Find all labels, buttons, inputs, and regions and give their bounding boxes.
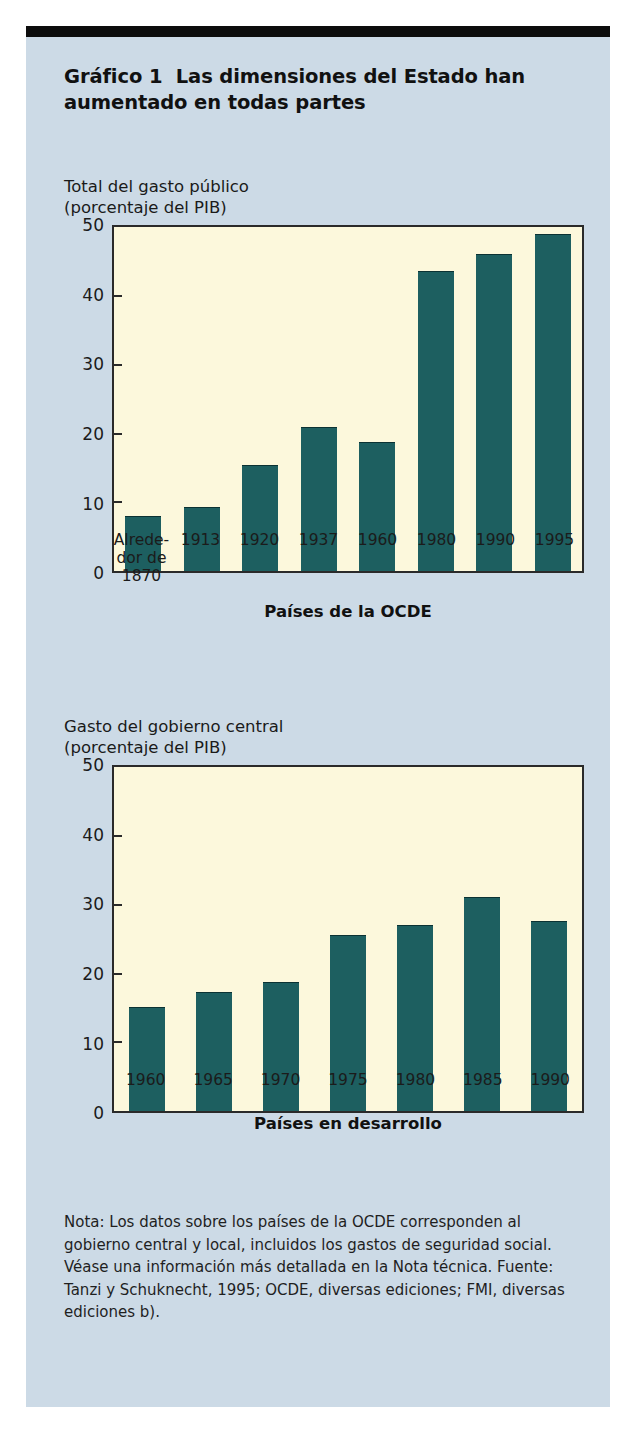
- chart-1-x-tick-label: Alrede- dor de 1870: [112, 532, 171, 585]
- chart-2-plot-area: [112, 765, 584, 1113]
- chart-1-heading: Total del gasto público (porcentaje del …: [64, 176, 584, 218]
- chart-2-x-axis: 1960196519701975198019851990: [112, 1072, 584, 1090]
- chart-2-x-tick-label: 1990: [517, 1072, 584, 1090]
- chart-1-y-tick-label: 30: [82, 354, 104, 374]
- chart-2-heading: Gasto del gobierno central (porcentaje d…: [64, 716, 584, 758]
- chart-2-x-tick-label: 1985: [449, 1072, 516, 1090]
- chart-1-x-tick-label: 1995: [525, 532, 584, 585]
- chart-1-plot-area: [112, 225, 584, 573]
- chart-2-bar-slot: [315, 767, 382, 1111]
- chart-2-bar-slot: [381, 767, 448, 1111]
- chart-2-subtitle: (porcentaje del PIB): [64, 737, 584, 758]
- chart-1-axis-title: Países de la OCDE: [112, 602, 584, 621]
- chart-1-subtitle: (porcentaje del PIB): [64, 197, 584, 218]
- chart-2-x-tick-label: 1960: [112, 1072, 179, 1090]
- chart-2-x-tick-label: 1965: [179, 1072, 246, 1090]
- chart-1-x-tick-label: 1980: [407, 532, 466, 585]
- chart-1-bar-slot: [524, 227, 583, 571]
- figure-card: Gráfico 1 Las dimensiones del Estado han…: [26, 26, 610, 1407]
- chart-1-x-tick-label: 1920: [230, 532, 289, 585]
- chart-1-bar-slot: [173, 227, 232, 571]
- chart-2-bar-slot: [181, 767, 248, 1111]
- chart-1-bar: [535, 234, 571, 571]
- chart-1-y-tick-label: 50: [82, 215, 104, 235]
- chart-1-x-tick-label: 1990: [466, 532, 525, 585]
- chart-2-plot-row: 01020304050: [64, 765, 584, 1113]
- chart-2-y-axis: 01020304050: [64, 765, 104, 1113]
- chart-2-y-tick-label: 40: [82, 825, 104, 845]
- chart-1-x-tick-label: 1937: [289, 532, 348, 585]
- chart-2-y-tick-label: 20: [82, 964, 104, 984]
- chart-1-bar-slot: [465, 227, 524, 571]
- chart-2-y-tick-label: 50: [82, 755, 104, 775]
- chart-panel-desarrollo: Gasto del gobierno central (porcentaje d…: [64, 716, 584, 1113]
- chart-2-bar-slot: [114, 767, 181, 1111]
- top-rule: [26, 26, 610, 37]
- chart-1-x-tick-label: 1960: [348, 532, 407, 585]
- chart-2-bar-slot: [448, 767, 515, 1111]
- chart-2-title: Gasto del gobierno central: [64, 716, 584, 737]
- chart-2-bar: [129, 1007, 165, 1111]
- chart-1-y-tick-label: 40: [82, 285, 104, 305]
- chart-1-bar-slot: [407, 227, 466, 571]
- chart-1-y-tick-label: 20: [82, 424, 104, 444]
- chart-1-bars: [114, 227, 582, 571]
- chart-2-bar: [196, 992, 232, 1111]
- figure-label: Gráfico 1: [64, 65, 162, 88]
- chart-1-bar-slot: [348, 227, 407, 571]
- chart-1-y-tick-label: 10: [82, 494, 104, 514]
- chart-2-x-tick-label: 1970: [247, 1072, 314, 1090]
- chart-2-bars: [114, 767, 582, 1111]
- chart-2-x-tick-label: 1975: [314, 1072, 381, 1090]
- chart-2-x-tick-label: 1980: [382, 1072, 449, 1090]
- chart-1-bar-slot: [290, 227, 349, 571]
- chart-2-y-tick-label: 30: [82, 894, 104, 914]
- chart-panel-ocde: Total del gasto público (porcentaje del …: [64, 176, 584, 573]
- chart-2-y-tick-label: 10: [82, 1034, 104, 1054]
- chart-1-plot-row: 01020304050: [64, 225, 584, 573]
- figure-note: Nota: Los datos sobre los países de la O…: [64, 1211, 569, 1324]
- chart-1-title: Total del gasto público: [64, 176, 584, 197]
- chart-1-bar-slot: [114, 227, 173, 571]
- chart-2-bar-slot: [515, 767, 582, 1111]
- chart-1-y-axis: 01020304050: [64, 225, 104, 573]
- chart-1-y-tick-label: 0: [93, 563, 104, 583]
- chart-1-bar: [418, 271, 454, 571]
- page-title: Gráfico 1 Las dimensiones del Estado han…: [64, 64, 564, 115]
- chart-1-bar-slot: [231, 227, 290, 571]
- chart-2-bar-slot: [248, 767, 315, 1111]
- chart-1-bar: [476, 254, 512, 571]
- chart-1-x-tick-label: 1913: [171, 532, 230, 585]
- chart-2-axis-title: Países en desarrollo: [112, 1114, 584, 1133]
- chart-1-x-axis: Alrede- dor de 1870191319201937196019801…: [112, 532, 584, 585]
- chart-2-y-tick-label: 0: [93, 1103, 104, 1123]
- chart-2-bar: [263, 982, 299, 1111]
